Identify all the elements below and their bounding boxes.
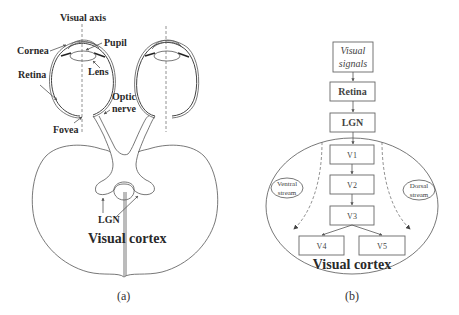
box-v4-text: V4: [317, 242, 327, 251]
dorsal-stream-arrow: [382, 142, 410, 229]
box-retina-text: Retina: [338, 86, 366, 97]
box-visual-signals-text-2: signals: [339, 58, 367, 69]
retina-pointer: [40, 85, 57, 100]
label-nerve: nerve: [112, 103, 136, 114]
dorsal-stream-text-2: stream: [410, 191, 429, 199]
panel-b-flowchart: Visual signals Retina LGN V1 V2 V3 V4 V5…: [266, 42, 438, 303]
brain-outline: [32, 145, 217, 277]
arrow-v3-v5: [352, 225, 382, 235]
label-cornea: Cornea: [17, 45, 49, 56]
panel-a-anatomy: Visual axis Cornea Pupil Lens Retina Opt…: [17, 12, 218, 303]
lens-ellipse: [70, 51, 96, 61]
ventral-stream-arrow: [294, 142, 322, 229]
caption-b: (b): [345, 289, 359, 303]
box-v5-text: V5: [377, 242, 387, 251]
box-v3-text: V3: [347, 212, 357, 221]
label-optic: Optic: [112, 91, 136, 102]
caption-a: (a): [117, 289, 130, 303]
box-v2-text: V2: [347, 181, 357, 190]
label-visual-cortex-b: Visual cortex: [313, 257, 391, 272]
box-v1-text: V1: [347, 151, 357, 160]
arrow-v3-v4: [322, 225, 352, 235]
figure-canvas: Visual axis Cornea Pupil Lens Retina Opt…: [0, 0, 459, 315]
label-pupil: Pupil: [104, 37, 127, 48]
label-visual-axis: Visual axis: [60, 12, 106, 23]
label-retina: Retina: [18, 69, 46, 80]
label-visual-cortex: Visual cortex: [88, 231, 166, 246]
dorsal-stream-text-1: Dorsal: [410, 182, 429, 190]
box-visual-signals-text-1: Visual: [341, 45, 366, 56]
box-lgn-text: LGN: [342, 117, 364, 128]
right-eye: [135, 40, 199, 118]
ventral-stream-text-1: Ventral: [277, 180, 297, 188]
label-lgn: LGN: [98, 214, 120, 225]
ventral-stream-text-2: stream: [278, 189, 297, 197]
left-eye: [49, 40, 115, 118]
label-lens: Lens: [88, 66, 109, 77]
label-fovea: Fovea: [53, 124, 79, 135]
optic-nerve-tract: [93, 116, 155, 195]
